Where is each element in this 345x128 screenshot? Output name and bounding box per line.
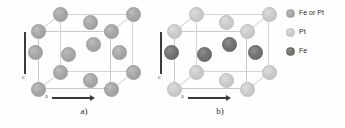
atom-corner-front-bottom-right [104,82,119,97]
legend-swatch-icon-both [286,9,295,18]
axis-horizontal-arrowhead-b [226,95,231,101]
axis-horizontal-arrowhead-a [90,95,95,101]
cell-edge [174,31,175,89]
cell-edge [196,71,269,72]
atom-corner-front-top-right [240,24,255,39]
legend-label: Pt [299,27,306,37]
legend-item-fe: Fe [286,46,345,65]
cell-edge [196,14,197,72]
atom-corner-front-bottom-left [167,82,182,97]
atom-corner-back-top-right [262,7,277,22]
cell-edge [268,14,269,72]
atom-corner-front-bottom-left [31,82,46,97]
cell-edge [174,88,247,89]
atom-corner-front-bottom-right [240,82,255,97]
atom-face-right-center [222,37,237,52]
panel-caption-a: a) [64,106,104,116]
atom-corner-back-bottom-right [262,65,277,80]
legend-item-pt: Pt [286,27,345,46]
atom-body-center [61,47,76,62]
atom-face-top-center [219,15,234,30]
cell-edge [38,31,39,89]
atom-face-left-center [164,45,179,60]
legend-item-both: Fe or Pt [286,8,345,27]
legend-label: Fe [299,46,307,56]
atom-corner-back-bottom-left [53,65,68,80]
cell-edge [246,31,247,89]
unit-cell-panel-a: c a a) [14,0,154,128]
cell-edge [60,14,133,15]
atom-face-left-center [28,45,43,60]
atom-corner-back-bottom-left [189,65,204,80]
atom-body-center [197,47,212,62]
cell-edge [60,14,61,72]
crystal-structure-figure: c a a) c a b) Fe or PtPtFe [0,0,345,128]
axis-vertical-a [24,32,26,74]
atom-face-top-center [83,15,98,30]
legend-label: Fe or Pt [299,8,324,18]
atom-corner-front-top-left [167,24,182,39]
cell-edge [38,88,111,89]
axis-horizontal-label-a: a [45,93,48,99]
atom-face-back-center [112,45,127,60]
cell-edge [132,14,133,72]
cell-edge [174,31,247,32]
atom-corner-front-top-right [104,24,119,39]
axis-horizontal-a [52,97,90,99]
axis-vertical-label-a: c [22,74,25,80]
atom-face-right-center [86,37,101,52]
atom-corner-back-top-left [53,7,68,22]
atom-corner-back-top-right [126,7,141,22]
atom-corner-back-bottom-right [126,65,141,80]
axis-vertical-b [160,32,162,74]
cell-edge [38,31,111,32]
axis-horizontal-label-b: a [181,93,184,99]
legend-swatch-icon-fe [286,47,295,56]
legend-swatch-icon-pt [286,28,295,37]
atom-face-back-center [248,45,263,60]
atom-corner-back-top-left [189,7,204,22]
atom-corner-front-top-left [31,24,46,39]
axis-horizontal-b [188,97,226,99]
cell-edge [110,31,111,89]
atom-face-bottom-center [219,73,234,88]
axis-vertical-label-b: c [158,74,161,80]
atom-face-bottom-center [83,73,98,88]
cell-edge [60,71,133,72]
cell-edge [196,14,269,15]
legend: Fe or PtPtFe [286,8,345,65]
unit-cell-panel-b: c a b) [150,0,290,128]
panel-caption-b: b) [200,106,240,116]
